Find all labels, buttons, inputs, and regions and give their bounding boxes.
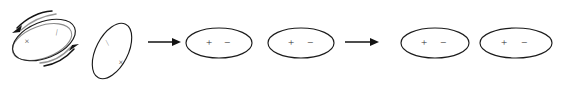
minus-sign-stage-3: − (224, 36, 230, 48)
transition-arrow-2-head (370, 38, 379, 46)
ellipse-outline-stage-4 (268, 28, 334, 58)
rotation-arrow-upper-left-head (12, 25, 22, 33)
stage-2-steep-tilted: ⁄ × (84, 17, 140, 85)
plus-sign-stage-4: + (288, 36, 294, 48)
plus-sign-stage-5: + (421, 36, 427, 48)
plus-sign-stage-6: + (501, 36, 507, 48)
cross-mark-stage-1: × (25, 36, 30, 46)
ellipse-outline-stage-5 (401, 28, 469, 58)
plus-sign-stage-3: + (206, 36, 212, 48)
stage-5-aligned-third: + − (401, 28, 469, 58)
ellipse-outline-stage-2 (84, 17, 140, 85)
stage-1-tilted-rotating: × ⁄ (7, 11, 82, 69)
stage-6-aligned-fourth: + − (480, 28, 552, 58)
minus-sign-stage-5: − (440, 36, 446, 48)
transition-arrow-2 (345, 38, 379, 46)
cross-mark-stage-2: × (119, 57, 124, 67)
rotation-arrow-upper-left-ghost (21, 14, 56, 30)
dash-mark-stage-2: ⁄ (102, 39, 112, 48)
transition-arrow-1-head (172, 38, 181, 46)
dash-mark-stage-1: ⁄ (52, 27, 60, 37)
stage-3-aligned-first: + − (186, 28, 252, 58)
dipole-reorientation-diagram: × ⁄ ⁄ × + − + − (0, 0, 563, 93)
rotation-arrow-upper-left-shaft (17, 11, 52, 28)
transition-arrow-1 (148, 38, 181, 46)
stage-4-aligned-second: + − (268, 28, 334, 58)
ellipse-outline-stage-6 (480, 28, 552, 58)
ellipse-outline-stage-3 (186, 28, 252, 58)
minus-sign-stage-6: − (521, 36, 527, 48)
minus-sign-stage-4: − (307, 36, 313, 48)
figure-canvas: × ⁄ ⁄ × + − + − (0, 0, 563, 93)
